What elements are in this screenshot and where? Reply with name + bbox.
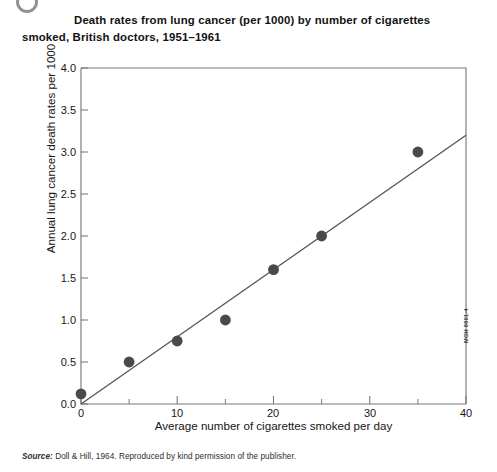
data-points (76, 147, 424, 400)
data-point (413, 147, 424, 158)
x-tick-label: 30 (354, 407, 386, 419)
y-axis-title: Annual lung cancer death rates per 1000 (44, 19, 57, 279)
y-tick-label: 1.0 (44, 314, 76, 326)
data-point (124, 357, 135, 368)
data-point (268, 264, 279, 275)
y-tick-label: 0.5 (44, 356, 76, 368)
scatter-chart: 4.0 3.5 3.0 2.5 2.0 1.5 1.0 0.5 0.0 0 10… (0, 0, 497, 440)
x-tick-label: 10 (161, 407, 193, 419)
x-tick-label: 40 (450, 407, 482, 419)
y-axis-ticks (81, 68, 88, 404)
data-point (76, 389, 87, 400)
plate-number-label: MGH 8801-4 (463, 308, 469, 343)
data-point (220, 315, 231, 326)
x-axis-title: Average number of cigarettes smoked per … (81, 419, 466, 432)
data-point (316, 231, 327, 242)
source-label: Source: (22, 452, 53, 461)
data-point (172, 336, 183, 347)
plot-frame (81, 68, 466, 404)
x-tick-label: 0 (65, 407, 97, 419)
source-note: Source: Doll & Hill, 1964. Reproduced by… (22, 452, 296, 461)
source-text: Doll & Hill, 1964. Reproduced by kind pe… (55, 452, 296, 461)
x-tick-label: 20 (257, 407, 289, 419)
x-axis-ticks (81, 396, 466, 404)
